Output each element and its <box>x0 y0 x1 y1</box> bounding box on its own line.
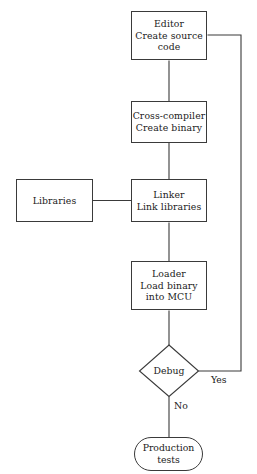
edge-label-no: No <box>174 400 188 411</box>
node-linker-label: Linker Link libraries <box>137 189 202 212</box>
node-linker[interactable]: Linker Link libraries <box>131 179 207 222</box>
flowchart-connectors <box>0 0 257 474</box>
node-production-tests[interactable]: Production tests <box>134 437 203 471</box>
flowchart-canvas: Editor Create source code Cross-compiler… <box>0 0 257 474</box>
node-editor-label: Editor Create source code <box>135 18 203 53</box>
node-libraries-label: Libraries <box>33 195 77 207</box>
node-cross-compiler-label: Cross-compiler Create binary <box>133 110 206 133</box>
debug-diamond-shape <box>140 345 199 397</box>
edge-label-yes: Yes <box>211 374 227 385</box>
node-production-tests-label: Production tests <box>143 442 195 465</box>
node-editor[interactable]: Editor Create source code <box>131 11 207 60</box>
node-loader[interactable]: Loader Load binary into MCU <box>131 261 207 310</box>
node-libraries[interactable]: Libraries <box>16 179 93 222</box>
node-cross-compiler[interactable]: Cross-compiler Create binary <box>131 101 207 143</box>
node-loader-label: Loader Load binary into MCU <box>140 268 197 303</box>
